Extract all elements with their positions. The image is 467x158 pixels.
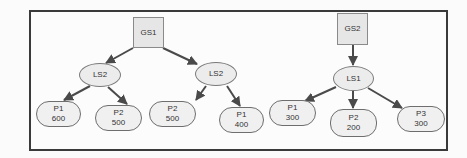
node-p1-600-value: 600: [52, 114, 65, 124]
node-p1-300-name: P1: [288, 103, 298, 113]
node-gs1-label: GS1: [140, 28, 156, 38]
edge-ls2a-p1: [64, 86, 90, 100]
node-p2-500-left-name: P2: [114, 108, 124, 118]
node-p3-300-value: 300: [414, 119, 427, 129]
node-p2-500-right: P2 500: [149, 101, 196, 127]
edge-ls2a-p2: [108, 87, 127, 104]
node-ls2-left-label: LS2: [93, 70, 107, 80]
node-ls2-right: LS2: [195, 62, 237, 86]
edge-ls1-p3: [368, 88, 402, 108]
node-ls1: LS1: [333, 66, 374, 91]
node-p1-300-value: 300: [286, 113, 299, 123]
edge-gs1-ls2b: [163, 48, 197, 64]
node-p2-200-name: P2: [349, 113, 359, 123]
node-p2-500-left-value: 500: [112, 118, 125, 128]
node-p2-200: P2 200: [330, 109, 377, 137]
edge-ls2b-p2: [196, 86, 206, 100]
node-p1-600-name: P1: [54, 104, 64, 114]
node-p1-400: P1 400: [219, 107, 264, 133]
node-p2-500-right-value: 500: [166, 114, 179, 124]
node-p1-600: P1 600: [36, 101, 81, 127]
node-p1-300: P1 300: [269, 100, 316, 126]
node-ls2-left: LS2: [79, 63, 121, 87]
edge-ls2b-p1: [227, 86, 240, 106]
node-p1-400-name: P1: [237, 110, 247, 120]
node-gs1: GS1: [133, 17, 164, 48]
node-gs2-label: GS2: [344, 24, 360, 34]
node-p3-300-name: P3: [416, 109, 426, 119]
node-ls1-label: LS1: [346, 74, 360, 84]
node-p2-500-right-name: P2: [168, 104, 178, 114]
node-p2-500-left: P2 500: [95, 105, 142, 131]
node-gs2: GS2: [337, 13, 368, 45]
edge-gs1-ls2a: [106, 48, 133, 63]
node-p3-300: P3 300: [397, 106, 445, 132]
edge-ls1-p1: [305, 87, 336, 101]
node-ls2-right-label: LS2: [209, 69, 223, 79]
node-p2-200-value: 200: [347, 123, 360, 133]
node-p1-400-value: 400: [235, 120, 248, 130]
